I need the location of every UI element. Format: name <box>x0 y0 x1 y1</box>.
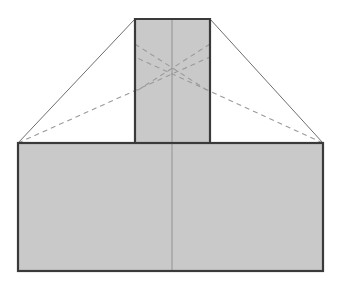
figure-svg <box>0 0 341 285</box>
base-rectangle-shape <box>18 143 323 271</box>
center-column-shape <box>135 19 210 143</box>
geometric-figure-canvas <box>0 0 341 285</box>
